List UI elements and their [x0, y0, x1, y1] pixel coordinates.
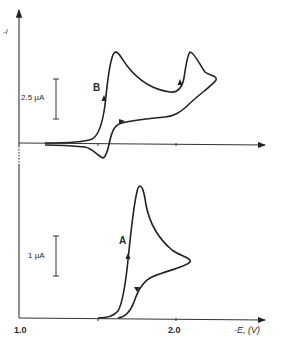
- curve-b: [45, 52, 216, 158]
- x-tick-label-2-0: 2.0: [168, 325, 181, 335]
- scale-bar-upper: [53, 79, 59, 119]
- curve-label-a: A: [119, 235, 126, 246]
- y-axis-label: -i: [3, 27, 7, 36]
- x-tick-label-1-0: 1.0: [14, 325, 27, 335]
- scale-bar-lower: [53, 236, 59, 276]
- curve-label-b: B: [93, 82, 100, 93]
- scale-label-lower: 1 µA: [28, 251, 45, 260]
- scale-label-upper: 2.5 µA: [21, 93, 44, 102]
- curve-a: [98, 186, 190, 318]
- voltammogram-figure: [0, 0, 284, 347]
- x-axis-lower: [19, 318, 265, 320]
- x-axis-label: -E, (V): [234, 325, 260, 335]
